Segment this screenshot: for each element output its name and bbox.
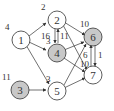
node-1-label: 1 xyxy=(18,34,24,46)
node-2-weight: 2 xyxy=(41,2,46,12)
node-3-weight: 11 xyxy=(2,72,11,82)
edge-label-11: 11 xyxy=(60,31,69,41)
edge-label-16: 16 xyxy=(41,31,51,41)
edge-1-4 xyxy=(29,42,46,50)
node-5-weight: 3 xyxy=(46,74,51,84)
edge-4-6 xyxy=(64,42,84,50)
node-6-weight: 10 xyxy=(80,19,90,29)
edge-label-10: 10 xyxy=(80,59,90,69)
node-7-label: 7 xyxy=(90,69,96,81)
node-3-label: 3 xyxy=(17,84,23,96)
node-4-label: 4 xyxy=(54,47,60,59)
edge-label-1: 1 xyxy=(98,50,103,60)
node-1-weight: 4 xyxy=(5,22,10,32)
node-6-label: 6 xyxy=(90,31,96,43)
node-2-label: 2 xyxy=(54,14,60,26)
node-5-label: 5 xyxy=(54,85,60,97)
graph-diagram: 1 4 2 2 3 11 4 3 5 3 6 10 7 16 11 6 10 1 xyxy=(0,0,114,111)
